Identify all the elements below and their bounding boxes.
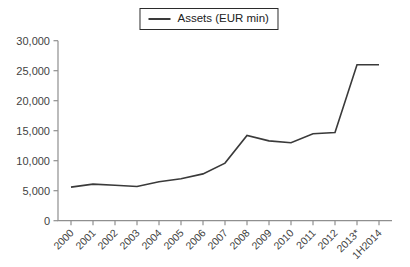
x-tick-label: 2000 — [51, 227, 76, 252]
y-tick-label: 5,000 — [22, 185, 50, 197]
y-tick-label: 10,000 — [16, 155, 50, 167]
plot-area: 05,00010,00015,00020,00025,00030,0002000… — [0, 0, 410, 267]
legend-line-swatch-icon — [148, 18, 170, 20]
axes — [58, 41, 392, 221]
y-tick-label: 25,000 — [16, 65, 50, 77]
chart-legend: Assets (EUR min) — [139, 8, 278, 30]
assets-line-chart: Assets (EUR min) 05,00010,00015,00020,00… — [0, 0, 410, 267]
x-tick-label: 2011 — [293, 227, 318, 252]
x-tick-label: 2003 — [117, 227, 142, 252]
x-tick-label: 2007 — [205, 227, 230, 252]
y-tick-label: 0 — [44, 215, 50, 227]
x-tick-label: 2001 — [73, 227, 98, 252]
x-tick-label: 2005 — [161, 227, 186, 252]
x-tick-label: 2010 — [271, 227, 296, 252]
x-tick-label: 2008 — [227, 227, 252, 252]
x-tick-label: 2002 — [95, 227, 120, 252]
y-tick-label: 30,000 — [16, 35, 50, 47]
x-tick-label: 2004 — [139, 227, 164, 252]
assets-line-series — [71, 65, 379, 187]
x-tick-label: 2006 — [183, 227, 208, 252]
y-tick-label: 20,000 — [16, 95, 50, 107]
legend-series-label: Assets (EUR min) — [177, 12, 268, 25]
y-tick-label: 15,000 — [16, 125, 50, 137]
x-tick-label: 2009 — [249, 227, 274, 252]
